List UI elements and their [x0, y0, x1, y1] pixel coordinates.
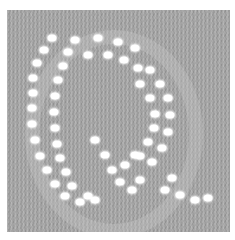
eyelet-hole: [51, 93, 60, 100]
eyelet-hole: [146, 95, 155, 102]
eyelet-hole: [51, 181, 60, 188]
eyelet-hole: [64, 49, 73, 56]
eyelet-hole: [148, 159, 157, 166]
eyelet-hole: [108, 167, 117, 174]
eyelet-hole: [176, 192, 185, 199]
eyelet-hole: [114, 39, 123, 46]
eyelet-hole: [164, 129, 173, 136]
eyelet-hole: [136, 177, 145, 184]
eyelet-hole: [84, 193, 93, 200]
eyelet-hole: [59, 63, 68, 70]
eyelet-hole: [68, 183, 77, 190]
eyelet-hole: [28, 105, 37, 112]
eyelet-hole: [62, 169, 71, 176]
eyelet-hole: [191, 197, 200, 204]
eyelet-hole: [151, 111, 160, 118]
eyelet-hole: [71, 37, 80, 44]
eyelet-hole: [29, 90, 38, 97]
eyelet-hole: [150, 125, 159, 132]
eyelet-hole: [204, 195, 213, 202]
eyelet-hole: [120, 57, 129, 64]
eyelet-hole: [128, 187, 137, 194]
eyelet-hole: [121, 162, 130, 169]
eyelet-hole: [91, 137, 100, 144]
eyelet-hole: [84, 52, 93, 59]
eyelet-hole: [28, 121, 37, 128]
eyelet-hole: [54, 77, 63, 84]
eyelet-hole: [33, 60, 42, 67]
eyelet-hole: [146, 67, 155, 74]
eyelet-hole: [158, 145, 167, 152]
eyelet-hole: [161, 187, 170, 194]
eyelet-hole: [134, 65, 143, 72]
eyelet-hole: [36, 153, 45, 160]
eyelet-hole: [31, 137, 40, 144]
eyelet-hole: [101, 152, 110, 159]
eyelet-hole: [156, 81, 165, 88]
eyelet-hole: [29, 75, 38, 82]
eyelet-hole: [168, 175, 177, 182]
eyelet-hole: [43, 167, 52, 174]
eyelet-hole: [61, 193, 70, 200]
eyelet-hole: [53, 141, 62, 148]
eyelet-hole: [131, 152, 140, 159]
eyelet-hole: [40, 47, 49, 54]
eyelet-hole: [51, 125, 60, 132]
eyelet-hole: [164, 95, 173, 102]
eyelet-hole: [136, 81, 145, 88]
eyelet-hole: [48, 35, 57, 42]
eyelet-hole: [50, 109, 59, 116]
eyelet-hole: [131, 45, 140, 52]
eyelet-hole: [56, 155, 65, 162]
eyelet-hole: [94, 35, 103, 42]
eyelet-hole: [166, 112, 175, 119]
eyelet-hole: [116, 179, 125, 186]
eyelet-hole: [104, 52, 113, 59]
eyelet-hole: [76, 199, 85, 206]
eyelet-hole: [144, 139, 153, 146]
